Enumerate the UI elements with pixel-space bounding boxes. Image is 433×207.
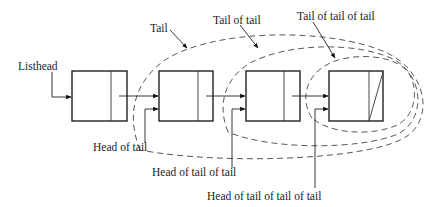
label-tail-of-tail-of-tail: Tail of tail of tail: [297, 10, 375, 22]
head-of-tail-leader: [145, 109, 158, 143]
listhead-pointer: [52, 72, 71, 97]
label-tail: Tail: [150, 22, 168, 34]
tail-of-tail-of-tail-leader: [313, 22, 335, 58]
head-of-tail-of-tail-of-tail-leader: [315, 109, 328, 188]
list-node-3: [246, 71, 300, 121]
list-node-2: [159, 71, 213, 121]
label-head-of-tail-of-tail-of-tail: Head of tail of tail of tail: [207, 190, 321, 202]
list-node-1: [72, 71, 127, 121]
tail-leader: [170, 30, 187, 48]
label-listhead: Listhead: [18, 60, 58, 72]
label-tail-of-tail: Tail of tail: [213, 14, 261, 26]
tail-of-tail-leader: [240, 25, 258, 48]
label-head-of-tail: Head of tail: [93, 141, 147, 153]
label-head-of-tail-of-tail: Head of tail of tail: [152, 166, 236, 178]
head-of-tail-of-tail-leader: [232, 109, 245, 168]
list-node-4: [329, 71, 383, 121]
diagram-svg: Listhead Tail Tail of tail Tail of tail …: [0, 0, 433, 207]
linked-list-diagram: Listhead Tail Tail of tail Tail of tail …: [0, 0, 433, 207]
